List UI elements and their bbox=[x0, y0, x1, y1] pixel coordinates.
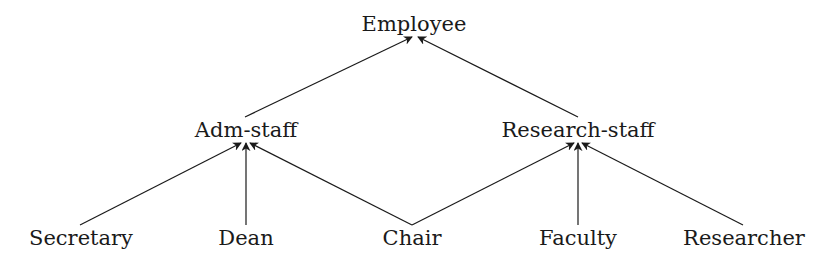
node-chair: Chair bbox=[383, 228, 442, 249]
node-researcher: Researcher bbox=[683, 228, 805, 249]
hierarchy-diagram: Employee Adm-staff Research-staff Secret… bbox=[0, 0, 826, 264]
node-employee: Employee bbox=[362, 14, 467, 35]
edge-secretary-to-adm-staff bbox=[80, 143, 241, 225]
node-secretary: Secretary bbox=[29, 228, 133, 249]
edge-chair-to-research-staff bbox=[412, 143, 574, 225]
edge-adm-staff-to-employee bbox=[245, 37, 412, 117]
node-dean: Dean bbox=[218, 228, 273, 249]
edge-researcher-to-research-staff bbox=[582, 143, 743, 225]
edge-chair-to-adm-staff bbox=[250, 143, 412, 225]
edges-layer bbox=[0, 0, 826, 264]
node-faculty: Faculty bbox=[539, 228, 617, 249]
node-research-staff: Research-staff bbox=[501, 120, 654, 141]
edge-research-staff-to-employee bbox=[418, 37, 578, 117]
node-adm-staff: Adm-staff bbox=[195, 120, 297, 141]
